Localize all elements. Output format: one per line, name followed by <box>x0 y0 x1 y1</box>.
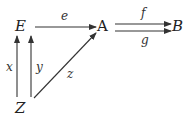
commutative-diagram: E A B Z e f g x y z <box>0 0 195 119</box>
label-f: f <box>140 6 148 20</box>
label-x: x <box>6 60 13 74</box>
node-A: A <box>96 17 108 35</box>
node-E: E <box>14 17 26 35</box>
label-g: g <box>141 33 149 47</box>
label-z: z <box>66 67 74 81</box>
arrow-z <box>34 33 96 98</box>
label-e: e <box>61 9 68 23</box>
label-y: y <box>35 60 43 74</box>
node-B: B <box>171 17 183 35</box>
node-Z: Z <box>14 99 26 117</box>
